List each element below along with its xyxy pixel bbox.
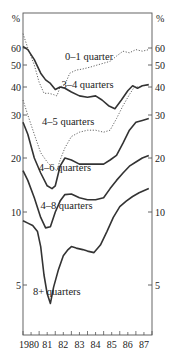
series-label: 4–5 quarters [42,116,94,127]
y-tick-label-right: 5 [155,280,160,291]
x-tick-label: 87 [139,339,149,350]
x-tick-label: 85 [107,339,117,350]
y-axis-left: 6050403020105% [11,13,27,291]
y-tick-label-left: 40 [11,82,21,93]
yield-spread-chart: 6050403020105% 6050403020105% 1980818283… [0,0,173,360]
series-label: 0–1 quarter [65,51,114,62]
y-tick-label-right: 60 [155,43,165,54]
x-axis: 198081828384858687 [19,331,152,350]
y-unit-left: % [12,13,20,24]
y-tick-label-right: 10 [155,207,165,218]
y-tick-label-left: 5 [16,280,21,291]
y-tick-label-left: 50 [11,60,21,71]
x-tick-label: 84 [91,339,101,350]
x-tick-label: 86 [123,339,133,350]
series-labels: 0–1 quarter3–4 quarters4–5 quarters4–6 q… [33,51,114,297]
y-tick-label-right: 20 [155,153,165,164]
y-tick-label-left: 20 [11,153,21,164]
x-tick-label: 83 [74,339,84,350]
x-tick-label: 81 [42,339,52,350]
y-unit-right: % [156,13,164,24]
y-tick-label-left: 30 [11,110,21,121]
y-tick-label-right: 50 [155,60,165,71]
x-tick-label: 1980 [19,339,39,350]
series-label: 8+ quarters [33,286,81,297]
y-tick-label-left: 60 [11,43,21,54]
y-tick-label-right: 30 [155,110,165,121]
x-tick-label: 82 [58,339,68,350]
y-tick-label-left: 10 [11,207,21,218]
y-axis-right: 6050403020105% [148,13,165,291]
series-label: 4–6 quarters [39,162,91,173]
series-label: 3–4 quarters [61,79,113,90]
y-tick-label-right: 40 [155,82,165,93]
series-label: 4–8 quarters [40,200,92,211]
